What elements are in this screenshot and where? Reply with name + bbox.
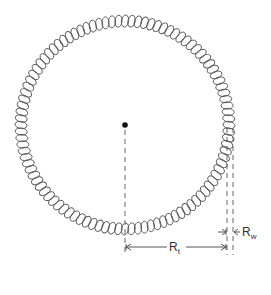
coil-loop: [163, 24, 176, 38]
coil-loop: [74, 212, 87, 226]
coil-loop: [219, 145, 233, 156]
coil-loop: [100, 220, 111, 234]
coil-loop: [151, 19, 163, 33]
coil-loop: [87, 217, 99, 231]
coil-loop: [24, 74, 38, 87]
coil-loop: [64, 30, 75, 44]
coil-loop: [81, 215, 93, 229]
coil-loop: [30, 175, 44, 186]
coil-loop: [70, 27, 81, 41]
coil-loop: [16, 100, 30, 111]
rw-label: Rw: [242, 225, 257, 241]
coil-loop: [175, 206, 186, 220]
coil-loop: [157, 21, 169, 35]
coil-loop: [27, 170, 41, 181]
coil-loop: [180, 202, 192, 216]
coil-loop: [139, 16, 150, 30]
coil-loop: [19, 87, 33, 99]
coil-loop: [17, 93, 31, 104]
coil-loop: [209, 70, 223, 81]
rt-label: Rt: [169, 240, 181, 256]
coil-loop: [93, 219, 104, 233]
coil-loop: [202, 58, 216, 70]
toroid-diagram: Rt Rw: [0, 0, 271, 295]
coil-loop: [212, 163, 226, 176]
coil-loop: [217, 151, 231, 163]
center-point: [122, 122, 128, 128]
coil-loop: [206, 64, 220, 75]
coil-loop: [145, 17, 156, 31]
coil-loop: [58, 34, 70, 48]
coil-loop: [21, 81, 35, 93]
rw-dimension: [218, 229, 240, 235]
coil-loop: [34, 180, 48, 192]
coil-loop: [170, 209, 181, 223]
